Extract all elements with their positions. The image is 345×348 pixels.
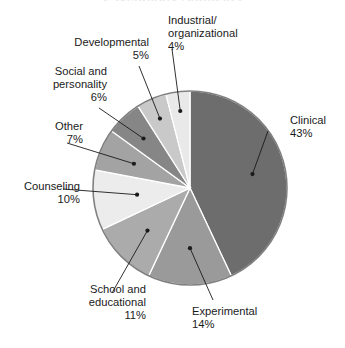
callout-dot	[141, 136, 145, 140]
label-text: Clinical	[290, 114, 326, 126]
pie-chart-figure: Psychology Subfields Industrial/ organiz…	[0, 0, 345, 348]
slice-label-social-and-personality: Social and personality 6%	[53, 65, 107, 105]
callout-dot	[132, 162, 136, 166]
label-text: Developmental	[74, 36, 149, 48]
label-percent: 43%	[290, 127, 326, 140]
slice-label-clinical: Clinical 43%	[290, 114, 326, 140]
callout-dot	[178, 109, 182, 113]
slice-label-counseling: Counseling 10%	[24, 180, 80, 206]
label-percent: 11%	[89, 309, 146, 322]
slice-label-experimental: Experimental 14%	[192, 305, 257, 331]
label-percent: 6%	[53, 91, 107, 104]
label-text: Other	[55, 120, 83, 132]
slice-label-industrial-organizational: Industrial/ organizational 4%	[168, 14, 238, 54]
callout-dot	[158, 116, 162, 120]
label-percent: 10%	[24, 193, 80, 206]
callout-dot	[250, 172, 254, 176]
label-text: Experimental	[192, 305, 257, 317]
label-text-line1: School and	[90, 283, 146, 295]
label-percent: 5%	[74, 49, 149, 62]
label-text-line1: Industrial/	[168, 14, 217, 26]
callout-dot	[188, 246, 192, 250]
pie-slices	[93, 91, 287, 285]
label-text-line2: organizational	[168, 27, 238, 39]
slice-label-developmental: Developmental 5%	[74, 36, 149, 62]
label-percent: 7%	[55, 133, 83, 146]
callout-dot	[145, 228, 149, 232]
label-text-line2: personality	[53, 78, 107, 90]
label-text-line2: educational	[89, 296, 146, 308]
slice-label-school-and-educational: School and educational 11%	[89, 283, 146, 323]
label-percent: 4%	[168, 40, 238, 53]
label-text-line1: Social and	[55, 65, 107, 77]
label-percent: 14%	[192, 318, 257, 331]
callout-dot	[135, 193, 139, 197]
slice-label-other: Other 7%	[55, 120, 83, 146]
label-text: Counseling	[24, 180, 80, 192]
